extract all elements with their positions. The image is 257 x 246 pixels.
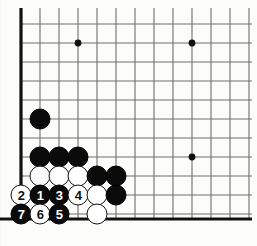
move-number-label: 2 <box>18 188 25 201</box>
black-stone-c2r6 <box>30 109 51 130</box>
black-stone-c2r9 <box>30 147 51 168</box>
black-stone-move-7: 7 <box>11 204 32 225</box>
black-stone-c3r9 <box>49 147 70 168</box>
black-stone-c6r11 <box>106 185 127 206</box>
move-number-label: 3 <box>56 188 63 201</box>
star-point <box>189 154 196 161</box>
white-stone-move-6: 6 <box>30 204 51 225</box>
white-stone-c5r12 <box>87 204 108 225</box>
black-stone-c4r9 <box>68 147 89 168</box>
white-stone-c2r10 <box>30 166 51 187</box>
white-stone-c5r11 <box>87 185 108 206</box>
white-stone-c3r10 <box>49 166 70 187</box>
move-number-label: 4 <box>75 188 82 201</box>
star-point <box>75 40 82 47</box>
go-board-diagram: 2134765 <box>0 0 257 246</box>
white-stone-move-2: 2 <box>11 185 32 206</box>
black-stone-move-5: 5 <box>49 204 70 225</box>
move-number-label: 5 <box>56 207 63 220</box>
star-point <box>189 40 196 47</box>
white-stone-c4r10 <box>68 166 89 187</box>
black-stone-move-3: 3 <box>49 185 70 206</box>
move-number-label: 6 <box>37 207 44 220</box>
black-stone-move-1: 1 <box>30 185 51 206</box>
black-stone-c5r10 <box>87 166 108 187</box>
white-stone-move-4: 4 <box>68 185 89 206</box>
black-stone-c6r10 <box>106 166 127 187</box>
move-number-label: 7 <box>18 207 25 220</box>
move-number-label: 1 <box>37 188 44 201</box>
